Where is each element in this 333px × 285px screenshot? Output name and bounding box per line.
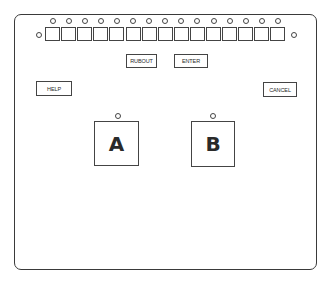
enter-button[interactable]: ENTER (174, 54, 208, 68)
key-button[interactable] (238, 27, 253, 41)
key-indicator-dot (66, 18, 72, 24)
choice-a-button[interactable]: A (94, 121, 139, 166)
key-button[interactable] (190, 27, 205, 41)
key-button[interactable] (158, 27, 173, 41)
left-indicator-dot (36, 32, 42, 38)
help-button[interactable]: HELP (36, 81, 72, 96)
key-indicator-dot (98, 18, 104, 24)
key-indicator-dot (227, 18, 233, 24)
key-button[interactable] (270, 27, 285, 41)
key-indicator-dot (114, 18, 120, 24)
key-indicator-dot (130, 18, 136, 24)
key-button[interactable] (45, 27, 60, 41)
choice-b-button[interactable]: B (191, 121, 235, 167)
key-button[interactable] (109, 27, 124, 41)
key-button[interactable] (93, 27, 108, 41)
key-indicator-dot (82, 18, 88, 24)
key-button[interactable] (174, 27, 189, 41)
choice-b-indicator-dot (210, 113, 216, 119)
key-button[interactable] (206, 27, 221, 41)
key-button[interactable] (126, 27, 141, 41)
key-button[interactable] (142, 27, 157, 41)
key-button[interactable] (61, 27, 76, 41)
key-button[interactable] (254, 27, 269, 41)
key-indicator-dot (211, 18, 217, 24)
key-indicator-dot (275, 18, 281, 24)
choice-a-indicator-dot (115, 113, 121, 119)
right-indicator-dot (291, 32, 297, 38)
key-button[interactable] (77, 27, 92, 41)
control-panel (14, 14, 317, 270)
rubout-button[interactable]: RUBOUT (126, 54, 157, 68)
key-indicator-dot (243, 18, 249, 24)
cancel-button[interactable]: CANCEL (263, 82, 297, 97)
key-indicator-dot (50, 18, 56, 24)
key-indicator-dot (259, 18, 265, 24)
key-button[interactable] (222, 27, 237, 41)
